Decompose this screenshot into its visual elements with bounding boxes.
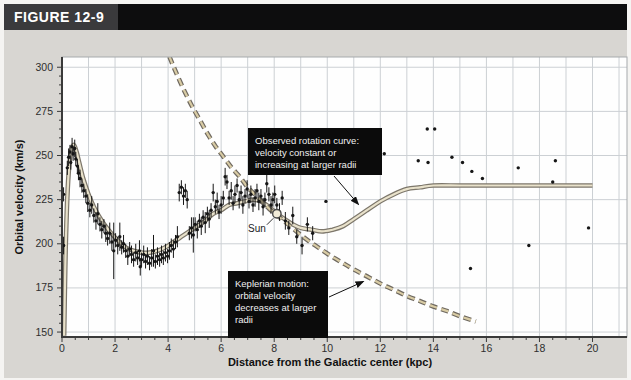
data-point bbox=[311, 231, 314, 234]
data-point bbox=[69, 161, 72, 164]
data-point bbox=[267, 193, 270, 196]
data-point bbox=[198, 219, 201, 222]
data-point bbox=[80, 184, 83, 187]
data-point bbox=[219, 203, 222, 206]
data-point bbox=[201, 216, 204, 219]
data-point bbox=[124, 249, 127, 252]
data-point bbox=[214, 205, 217, 208]
data-point bbox=[92, 214, 95, 217]
x-tick-label: 6 bbox=[218, 342, 224, 354]
data-point bbox=[68, 150, 71, 153]
data-point bbox=[206, 212, 209, 215]
y-tick-label: 275 bbox=[35, 105, 53, 117]
data-point bbox=[324, 200, 327, 203]
data-point bbox=[291, 214, 294, 217]
data-point bbox=[251, 203, 254, 206]
data-point bbox=[280, 196, 283, 199]
data-point bbox=[144, 260, 147, 263]
data-point bbox=[193, 223, 196, 226]
plot-background bbox=[62, 57, 627, 337]
data-point bbox=[257, 200, 260, 203]
data-point bbox=[222, 196, 225, 199]
data-point bbox=[273, 193, 276, 196]
data-point bbox=[112, 249, 115, 252]
data-point bbox=[306, 223, 309, 226]
data-point bbox=[160, 253, 163, 256]
data-point bbox=[426, 161, 429, 164]
data-point bbox=[247, 200, 250, 203]
data-point bbox=[166, 254, 169, 257]
data-point bbox=[190, 226, 193, 229]
data-point bbox=[215, 200, 218, 203]
x-tick-label: 8 bbox=[271, 342, 277, 354]
data-point bbox=[243, 194, 246, 197]
data-point bbox=[150, 256, 153, 259]
data-point bbox=[138, 249, 141, 252]
data-point bbox=[186, 198, 189, 201]
data-point bbox=[469, 267, 472, 270]
figure-header-strip bbox=[118, 4, 627, 30]
data-point bbox=[196, 228, 199, 231]
data-point bbox=[461, 161, 464, 164]
y-tick-label: 175 bbox=[35, 281, 53, 293]
y-tick-label: 225 bbox=[35, 193, 53, 205]
data-point bbox=[96, 212, 99, 215]
data-point bbox=[235, 184, 238, 187]
data-point bbox=[231, 201, 234, 204]
data-point bbox=[132, 258, 135, 261]
data-point bbox=[154, 260, 157, 263]
figure-header: FIGURE 12-9 bbox=[4, 4, 627, 30]
data-point bbox=[66, 166, 69, 169]
data-point bbox=[249, 193, 252, 196]
x-tick-label: 10 bbox=[321, 342, 333, 354]
data-point bbox=[86, 201, 89, 204]
data-point bbox=[156, 254, 159, 257]
data-point bbox=[208, 217, 211, 220]
data-point bbox=[126, 254, 129, 257]
data-point bbox=[192, 233, 195, 236]
data-point bbox=[146, 254, 149, 257]
data-point bbox=[383, 152, 386, 155]
data-point bbox=[223, 175, 226, 178]
x-tick-label: 0 bbox=[59, 342, 65, 354]
data-point bbox=[164, 251, 167, 254]
y-axis-title: Orbital velocity (km/s) bbox=[13, 139, 25, 254]
data-point bbox=[230, 189, 233, 192]
data-point bbox=[116, 244, 119, 247]
data-point bbox=[106, 237, 109, 240]
data-point bbox=[162, 256, 165, 259]
data-point bbox=[90, 203, 93, 206]
data-point bbox=[130, 253, 133, 256]
x-tick-label: 20 bbox=[587, 342, 599, 354]
data-point bbox=[275, 203, 278, 206]
data-point bbox=[241, 203, 244, 206]
data-point bbox=[433, 127, 436, 130]
data-point bbox=[237, 198, 240, 201]
data-point bbox=[253, 196, 256, 199]
data-point bbox=[140, 258, 143, 261]
data-point bbox=[88, 209, 91, 212]
data-point bbox=[122, 242, 125, 245]
y-tick-label: 200 bbox=[35, 237, 53, 249]
data-point bbox=[184, 189, 187, 192]
data-point bbox=[527, 244, 530, 247]
data-point bbox=[200, 224, 203, 227]
data-point bbox=[261, 205, 264, 208]
data-point bbox=[180, 186, 183, 189]
x-tick-label: 16 bbox=[481, 342, 493, 354]
data-point bbox=[174, 240, 177, 243]
data-point bbox=[114, 239, 117, 242]
data-point bbox=[271, 198, 274, 201]
y-tick-label: 250 bbox=[35, 149, 53, 161]
data-point bbox=[98, 223, 101, 226]
data-point bbox=[100, 228, 103, 231]
data-point bbox=[217, 210, 220, 213]
x-tick-label: 4 bbox=[165, 342, 171, 354]
y-tick-label: 150 bbox=[35, 326, 53, 338]
data-point bbox=[120, 246, 123, 249]
data-point bbox=[176, 235, 179, 238]
data-point bbox=[265, 182, 268, 185]
data-point bbox=[204, 221, 207, 224]
data-point bbox=[287, 226, 290, 229]
data-point bbox=[239, 191, 242, 194]
